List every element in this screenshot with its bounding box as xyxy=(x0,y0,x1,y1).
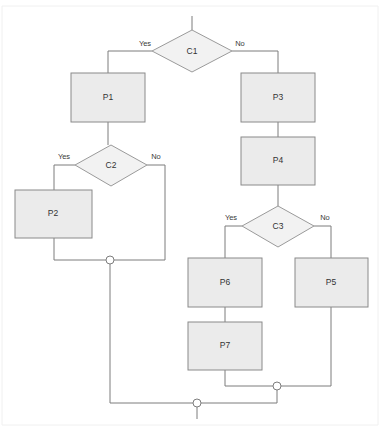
p5-label: P5 xyxy=(326,277,337,287)
edge-c1-yes-to-p1 xyxy=(108,51,152,73)
junction-merge-final xyxy=(193,399,201,407)
edge-p7-to-mergeright xyxy=(225,370,273,386)
node-p7[interactable]: P7 xyxy=(188,322,262,370)
edge-label-c2-no: No xyxy=(151,152,161,161)
flowchart-canvas: P1 P2 P3 P4 P5 P6 P7 C1 xyxy=(0,0,382,431)
node-p3[interactable]: P3 xyxy=(241,73,315,122)
p7-label: P7 xyxy=(220,340,231,350)
p6-label: P6 xyxy=(220,277,231,287)
node-p4[interactable]: P4 xyxy=(241,137,315,185)
junction-merge-right xyxy=(273,382,281,390)
node-p5[interactable]: P5 xyxy=(295,258,368,307)
edge-mergeleft-to-final xyxy=(110,264,193,403)
edge-p2-to-merge xyxy=(54,238,106,260)
node-c3[interactable]: C3 xyxy=(242,206,314,247)
node-p2[interactable]: P2 xyxy=(15,190,92,238)
edge-c1-no-to-p3 xyxy=(232,51,278,73)
node-p1[interactable]: P1 xyxy=(71,73,145,122)
edge-mergeright-to-final xyxy=(201,390,277,403)
edge-label-c1-yes: Yes xyxy=(139,39,151,48)
edge-label-c3-yes: Yes xyxy=(225,213,237,222)
p4-label: P4 xyxy=(273,155,284,165)
c2-label: C2 xyxy=(106,160,117,170)
edge-c3-no-to-p5 xyxy=(314,226,331,258)
node-c1[interactable]: C1 xyxy=(152,30,232,72)
node-c2[interactable]: C2 xyxy=(75,145,147,186)
edge-label-c3-no: No xyxy=(320,213,330,222)
junction-merge-left xyxy=(106,256,114,264)
c3-label: C3 xyxy=(273,221,284,231)
p1-label: P1 xyxy=(103,92,114,102)
p2-label: P2 xyxy=(48,208,59,218)
c1-label: C1 xyxy=(187,46,198,56)
flowchart-svg: P1 P2 P3 P4 P5 P6 P7 C1 xyxy=(0,0,382,431)
p3-label: P3 xyxy=(273,92,284,102)
edge-label-c2-yes: Yes xyxy=(58,152,70,161)
edge-label-c1-no: No xyxy=(235,39,245,48)
edge-p5-to-mergeright xyxy=(281,307,331,386)
edge-c2-yes-to-p2 xyxy=(54,165,75,190)
edge-c3-yes-to-p6 xyxy=(225,226,242,258)
node-p6[interactable]: P6 xyxy=(188,258,262,307)
